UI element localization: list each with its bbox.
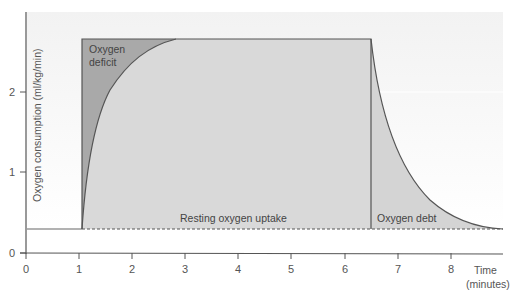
x-tick-label: 6 <box>342 263 348 275</box>
y-tick-label: 1 <box>9 166 15 178</box>
x-tick-label: 8 <box>448 263 454 275</box>
y-ticks: 0 1 2 <box>9 86 26 259</box>
x-tick-label: 7 <box>395 263 401 275</box>
x-tick-label: 3 <box>182 263 188 275</box>
x-axis-title-line1: Time <box>474 264 497 276</box>
x-tick-label: 5 <box>288 263 294 275</box>
x-ticks: 0 1 2 3 4 5 6 7 8 <box>23 253 454 275</box>
y-tick-label: 0 <box>9 247 15 259</box>
oxygen-deficit-label-line1: Oxygen <box>89 43 125 55</box>
x-axis <box>20 253 503 254</box>
y-axis-title: Oxygen consumption (ml/kg/min) <box>31 49 43 202</box>
x-tick-label: 4 <box>235 263 241 275</box>
y-tick-label: 2 <box>9 86 15 98</box>
x-tick-label: 0 <box>23 263 29 275</box>
x-axis-title-line2: (minutes) <box>466 278 510 290</box>
oxygen-deficit-label-line2: deficit <box>89 56 117 68</box>
x-tick-label: 1 <box>76 263 82 275</box>
oxygen-debt-label: Oxygen debt <box>377 212 437 224</box>
oxygen-consumption-chart: 0 1 2 0 1 2 3 4 5 6 7 8 Oxygen consumpti… <box>0 0 515 301</box>
x-tick-label: 2 <box>129 263 135 275</box>
resting-oxygen-uptake-label: Resting oxygen uptake <box>180 212 287 224</box>
